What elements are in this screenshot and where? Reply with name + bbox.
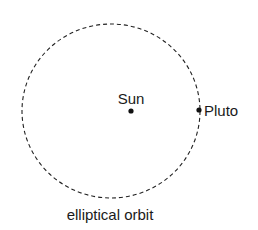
orbit-label: elliptical orbit [67,206,155,223]
pluto-label: Pluto [204,102,238,119]
elliptical-orbit-path [22,24,200,198]
orbit-diagram: Sun Pluto elliptical orbit [0,0,258,230]
sun-label: Sun [118,90,145,107]
pluto-dot [196,107,201,112]
sun-dot [128,108,133,113]
